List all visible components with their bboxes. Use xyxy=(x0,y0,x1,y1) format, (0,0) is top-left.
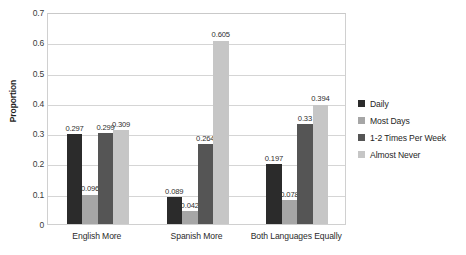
bar xyxy=(213,41,229,224)
bar-chart: Proportion 0.70.60.50.40.30.20.10 0.2970… xyxy=(0,0,466,255)
y-axis-tick-label: 0 xyxy=(18,220,44,230)
bar-value-label: 0.042 xyxy=(181,201,199,210)
y-axis-tick-label: 0.7 xyxy=(18,8,44,18)
legend-swatch-icon xyxy=(358,100,365,107)
bar-slot: 0.394 xyxy=(313,14,329,224)
legend-swatch-icon xyxy=(358,117,365,124)
y-axis-tick-label: 0.4 xyxy=(18,99,44,109)
bar xyxy=(297,124,313,224)
legend-label: Most Days xyxy=(370,116,410,126)
bar-value-label: 0.264 xyxy=(196,134,214,143)
bar-value-label: 0.33 xyxy=(298,114,312,123)
plot-area: 0.2970.0960.2990.3090.0890.0420.2640.605… xyxy=(47,13,346,225)
bar-value-label: 0.297 xyxy=(65,124,83,133)
bar-slot: 0.33 xyxy=(297,14,313,224)
y-axis-tick-labels: 0.70.60.50.40.30.20.10 xyxy=(18,13,44,225)
legend-label: 1-2 Times Per Week xyxy=(370,133,446,143)
bar-slot: 0.605 xyxy=(213,14,229,224)
bar-slot: 0.089 xyxy=(167,14,183,224)
y-axis-tick-label: 0.6 xyxy=(18,38,44,48)
y-axis-tick-label: 0.3 xyxy=(18,129,44,139)
x-axis-category-label: Both Languages Equally xyxy=(251,231,342,241)
y-axis-title: Proportion xyxy=(8,61,18,141)
legend-label: Almost Never xyxy=(370,150,420,160)
legend-item[interactable]: 1-2 Times Per Week xyxy=(358,130,466,145)
bar xyxy=(182,211,198,224)
bar xyxy=(82,195,98,224)
bar-value-label: 0.605 xyxy=(212,30,230,39)
legend-item[interactable]: Almost Never xyxy=(358,147,466,162)
legend-item[interactable]: Most Days xyxy=(358,113,466,128)
y-axis-tick-label: 0.1 xyxy=(18,190,44,200)
bar-value-label: 0.394 xyxy=(311,94,329,103)
bar-value-label: 0.197 xyxy=(265,154,283,163)
bar xyxy=(67,134,83,224)
bar-value-label: 0.078 xyxy=(280,190,298,199)
bar-slot: 0.078 xyxy=(282,14,298,224)
bar-value-label: 0.309 xyxy=(112,120,130,129)
y-axis-tick-label: 0.2 xyxy=(18,159,44,169)
bar xyxy=(282,200,298,224)
bar-slot: 0.309 xyxy=(113,14,129,224)
legend-item[interactable]: Daily xyxy=(358,96,466,111)
x-axis-category-label: English More xyxy=(72,231,121,241)
bar-slot: 0.096 xyxy=(82,14,98,224)
bar-group: 0.2970.0960.2990.309 xyxy=(67,14,129,224)
bar-group: 0.1970.0780.330.394 xyxy=(266,14,328,224)
legend-label: Daily xyxy=(370,99,389,109)
x-axis-category-labels: English MoreSpanish MoreBoth Languages E… xyxy=(47,231,346,249)
bar xyxy=(113,130,129,224)
bar xyxy=(98,133,114,224)
legend-swatch-icon xyxy=(358,151,365,158)
bar-value-label: 0.089 xyxy=(165,187,183,196)
bar-group: 0.0890.0420.2640.605 xyxy=(167,14,229,224)
legend-swatch-icon xyxy=(358,134,365,141)
bar-value-label: 0.096 xyxy=(81,184,99,193)
bar xyxy=(313,105,329,224)
bar xyxy=(198,144,214,224)
y-axis-tick-label: 0.5 xyxy=(18,69,44,79)
bars-layer: 0.2970.0960.2990.3090.0890.0420.2640.605… xyxy=(48,14,345,224)
chart-legend: DailyMost Days1-2 Times Per WeekAlmost N… xyxy=(358,96,466,164)
bar-slot: 0.264 xyxy=(198,14,214,224)
x-axis-category-label: Spanish More xyxy=(171,231,223,241)
bar-slot: 0.042 xyxy=(182,14,198,224)
